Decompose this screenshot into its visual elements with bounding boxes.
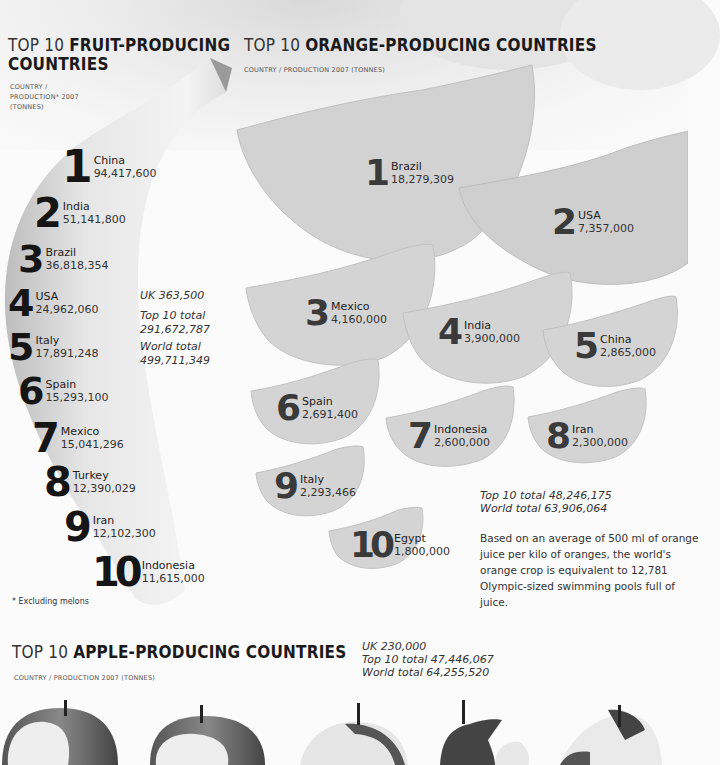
orange-rank-entry: 8 Iran2,300,000: [546, 418, 628, 454]
subtitle-line: (TONNES): [10, 102, 79, 112]
rank-number: 9: [274, 468, 296, 504]
production-value: 4,160,000: [331, 313, 387, 326]
rank-number: 10: [92, 552, 138, 592]
country-name: Italy: [35, 334, 98, 347]
fruit-rank-entry: 4 USA24,962,060: [8, 284, 98, 322]
rank-number: 2: [552, 204, 574, 240]
country-name: India: [464, 319, 520, 332]
country-name: China: [600, 333, 656, 346]
subtitle-line: COUNTRY /: [10, 82, 79, 92]
production-value: 2,300,000: [572, 436, 628, 449]
value: 499,711,349: [140, 354, 210, 368]
title-bold-part: APPLE-PRODUCING COUNTRIES: [73, 642, 346, 662]
production-value: 2,293,466: [300, 486, 356, 499]
orange-rank-entry: 1 Brazil18,279,309: [365, 155, 454, 191]
rank-number: 5: [574, 328, 596, 364]
fruit-rank-entry: 3 Brazil36,818,354: [18, 240, 108, 278]
production-value: 17,891,248: [35, 347, 98, 360]
production-value: 24,962,060: [35, 303, 98, 316]
subtitle-line: PRODUCTION* 2007: [10, 92, 79, 102]
rank-number: 1: [365, 155, 387, 191]
title-bold-part: FRUIT-PRODUCING: [69, 35, 230, 55]
orange-rank-entry: 4 India3,900,000: [438, 314, 520, 350]
orange-rank-entry: 2 USA7,357,000: [552, 204, 634, 240]
fruit-world-total: World total 499,711,349: [140, 340, 210, 368]
production-value: 11,615,000: [142, 572, 205, 585]
label: World total: [140, 340, 210, 354]
orange-juice-fact: Based on an average of 500 ml of orange …: [480, 530, 700, 610]
fruit-rank-entry: 2 India51,141,800: [34, 193, 126, 233]
fruit-uk-total: UK 363,500: [140, 289, 204, 303]
orange-rank-entry: 9 Italy2,293,466: [274, 468, 356, 504]
fruit-rank-entry: 8 Turkey12,390,029: [44, 462, 136, 502]
apple-illustrations: [0, 700, 688, 765]
production-value: 12,390,029: [73, 482, 136, 495]
fruit-top10-total: Top 10 total 291,672,787: [140, 309, 210, 337]
country-name: USA: [35, 290, 98, 303]
orange-rank-entry: 3 Mexico4,160,000: [305, 295, 387, 331]
apple-world-total: World total 64,255,520: [362, 666, 489, 680]
rank-number: 3: [18, 240, 41, 278]
country-name: USA: [578, 209, 634, 222]
production-value: 1,800,000: [394, 545, 450, 558]
orange-rank-entry: 10 Egypt1,800,000: [350, 527, 450, 563]
production-value: 2,600,000: [434, 436, 490, 449]
orange-top10-total: Top 10 total 48,246,175: [480, 489, 612, 503]
rank-number: 10: [350, 527, 390, 563]
fruit-rank-entry: 9 Iran12,102,300: [64, 507, 156, 547]
orange-section-subtitle: COUNTRY / PRODUCTION 2007 (TONNES): [244, 65, 385, 75]
production-value: 94,417,600: [94, 167, 157, 180]
fruit-footnote: * Excluding melons: [12, 597, 89, 606]
label: Top 10 total: [140, 309, 210, 323]
fruit-rank-entry: 6 Spain15,293,100: [18, 372, 108, 410]
country-name: Iran: [572, 423, 628, 436]
country-name: Brazil: [45, 246, 108, 259]
apple-top10-total: Top 10 total 47,446,067: [362, 653, 494, 667]
production-value: 2,691,400: [302, 408, 358, 421]
country-name: Mexico: [61, 425, 124, 438]
production-value: 36,818,354: [45, 259, 108, 272]
orange-world-total: World total 63,906,064: [480, 502, 607, 516]
fruit-section-subtitle: COUNTRY / PRODUCTION* 2007 (TONNES): [10, 82, 79, 112]
title-light-part: TOP 10: [12, 642, 73, 662]
country-name: India: [63, 200, 126, 213]
rank-number: 7: [32, 418, 57, 458]
fruit-rank-entry: 5 Italy17,891,248: [8, 328, 98, 366]
country-name: Indonesia: [434, 423, 490, 436]
rank-number: 6: [276, 390, 298, 426]
country-name: Turkey: [73, 469, 136, 482]
country-name: Italy: [300, 473, 356, 486]
country-name: Spain: [302, 395, 358, 408]
country-name: Indonesia: [142, 559, 205, 572]
title-bold-part: ORANGE-PRODUCING COUNTRIES: [305, 35, 596, 55]
rank-number: 8: [44, 462, 69, 502]
production-value: 51,141,800: [63, 213, 126, 226]
orange-rank-entry: 6 Spain2,691,400: [276, 390, 358, 426]
production-value: 15,293,100: [45, 391, 108, 404]
title-light-part: TOP 10: [8, 35, 69, 55]
apple-section-title: TOP 10 APPLE-PRODUCING COUNTRIES: [12, 643, 346, 662]
title-bold-part: COUNTRIES: [8, 54, 109, 74]
production-value: 7,357,000: [578, 222, 634, 235]
rank-number: 4: [8, 284, 31, 322]
country-name: Spain: [45, 378, 108, 391]
fruit-rank-entry: 1 China94,417,600: [62, 145, 157, 189]
orange-rank-entry: 5 China2,865,000: [574, 328, 656, 364]
rank-number: 8: [546, 418, 568, 454]
fruit-rank-entry: 7 Mexico15,041,296: [32, 418, 124, 458]
rank-number: 1: [62, 145, 90, 189]
rank-number: 7: [408, 418, 430, 454]
value: 291,672,787: [140, 323, 210, 337]
rank-number: 4: [438, 314, 460, 350]
country-name: Egypt: [394, 532, 450, 545]
production-value: 18,279,309: [391, 173, 454, 186]
apple-uk-total: UK 230,000: [362, 640, 426, 654]
rank-number: 2: [34, 193, 59, 233]
rank-number: 9: [64, 507, 89, 547]
country-name: Iran: [93, 514, 156, 527]
country-name: Brazil: [391, 160, 454, 173]
rank-number: 6: [18, 372, 41, 410]
orange-rank-entry: 7 Indonesia2,600,000: [408, 418, 490, 454]
rank-number: 5: [8, 328, 31, 366]
title-light-part: TOP 10: [244, 35, 305, 55]
